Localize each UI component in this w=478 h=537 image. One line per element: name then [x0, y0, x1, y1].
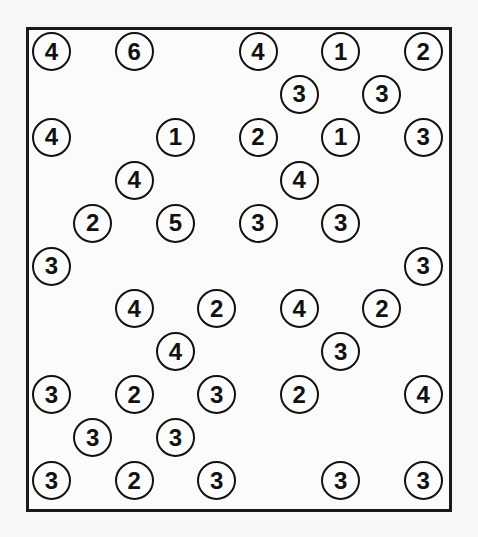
island-r2-c3[interactable]: 1 — [156, 118, 195, 157]
island-r6-c2[interactable]: 4 — [115, 289, 154, 328]
island-r1-c6[interactable]: 3 — [280, 75, 319, 114]
island-r2-c5[interactable]: 2 — [239, 118, 278, 157]
island-r5-c9[interactable]: 3 — [404, 247, 443, 286]
island-r9-c3[interactable]: 3 — [156, 418, 195, 457]
island-r5-c0[interactable]: 3 — [32, 247, 71, 286]
island-r9-c1[interactable]: 3 — [73, 418, 112, 457]
island-r1-c8[interactable]: 3 — [362, 75, 401, 114]
island-r2-c9[interactable]: 3 — [404, 118, 443, 157]
puzzle-board: 46412334121344253333424243323243332333 — [26, 27, 452, 512]
island-r3-c2[interactable]: 4 — [115, 161, 154, 200]
island-r10-c2[interactable]: 2 — [115, 461, 154, 500]
island-r0-c9[interactable]: 2 — [404, 32, 443, 71]
island-r6-c6[interactable]: 4 — [280, 289, 319, 328]
island-r8-c4[interactable]: 3 — [197, 375, 236, 414]
island-r0-c0[interactable]: 4 — [32, 32, 71, 71]
island-r4-c3[interactable]: 5 — [156, 204, 195, 243]
island-r10-c9[interactable]: 3 — [404, 461, 443, 500]
island-r4-c1[interactable]: 2 — [73, 204, 112, 243]
island-r10-c4[interactable]: 3 — [197, 461, 236, 500]
island-r8-c0[interactable]: 3 — [32, 375, 71, 414]
island-r7-c3[interactable]: 4 — [156, 332, 195, 371]
island-r4-c5[interactable]: 3 — [239, 204, 278, 243]
island-r0-c5[interactable]: 4 — [239, 32, 278, 71]
island-r3-c6[interactable]: 4 — [280, 161, 319, 200]
island-r0-c2[interactable]: 6 — [115, 32, 154, 71]
island-r2-c7[interactable]: 1 — [321, 118, 360, 157]
island-r8-c6[interactable]: 2 — [280, 375, 319, 414]
island-r6-c8[interactable]: 2 — [362, 289, 401, 328]
island-r8-c9[interactable]: 4 — [404, 375, 443, 414]
island-r2-c0[interactable]: 4 — [32, 118, 71, 157]
island-r6-c4[interactable]: 2 — [197, 289, 236, 328]
island-r10-c7[interactable]: 3 — [321, 461, 360, 500]
island-r0-c7[interactable]: 1 — [321, 32, 360, 71]
island-r8-c2[interactable]: 2 — [115, 375, 154, 414]
island-r7-c7[interactable]: 3 — [321, 332, 360, 371]
island-r4-c7[interactable]: 3 — [321, 204, 360, 243]
island-r10-c0[interactable]: 3 — [32, 461, 71, 500]
